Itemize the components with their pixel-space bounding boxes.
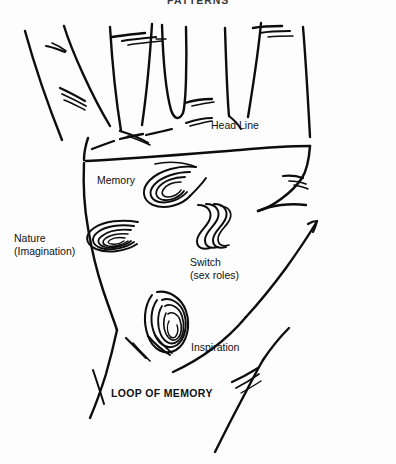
label-inspiration: Inspiration xyxy=(191,341,239,354)
switch-wave xyxy=(197,204,231,249)
label-switch-secondary: (sex roles) xyxy=(190,269,239,282)
label-nature-secondary: (Imagination) xyxy=(14,245,75,258)
broken-crease-upper xyxy=(92,134,143,149)
label-switch-primary: Switch xyxy=(190,256,221,268)
finger-index xyxy=(25,26,110,140)
label-switch: Switch (sex roles) xyxy=(190,256,239,281)
finger-middle xyxy=(110,24,166,131)
head-line xyxy=(86,146,310,161)
label-loop-of-memory: LOOP OF MEMORY xyxy=(111,387,213,400)
nature-loop xyxy=(87,221,138,252)
label-nature: Nature (Imagination) xyxy=(14,232,75,257)
finger-little xyxy=(225,23,293,117)
inspiration-loop xyxy=(145,292,188,355)
finger-outer-edge xyxy=(303,27,310,137)
palm-pattern-figure: PATTERNS xyxy=(0,0,396,464)
label-nature-primary: Nature xyxy=(14,232,46,244)
thumb-web xyxy=(258,146,310,211)
label-memory: Memory xyxy=(97,174,135,187)
label-head-line: Head Line xyxy=(211,119,259,132)
memory-whorl xyxy=(144,162,206,207)
